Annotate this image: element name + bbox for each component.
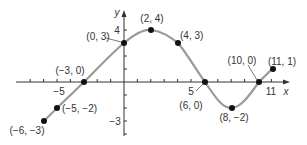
label-8-neg2: (8, −2): [219, 112, 248, 123]
point-neg5-neg2: [54, 105, 60, 111]
label-2-4: (2, 4): [140, 13, 163, 24]
x-tick-label-11: 11: [266, 86, 277, 97]
point-6-0: [202, 79, 208, 85]
point-10-0: [256, 79, 262, 85]
label-11-1: (11, 1): [268, 56, 296, 67]
y-tick-label-neg3: −3: [109, 116, 121, 127]
x-tick-label-5: 5: [188, 86, 194, 97]
label-4-3: (4, 3): [180, 30, 203, 41]
function-graph: −5 5 11 x y 4 −3 (−6, −3) (−5, −2) (−3, …: [0, 0, 307, 145]
x-axis-arrow-icon: [283, 80, 290, 85]
x-tick-label-neg5: −5: [53, 86, 65, 97]
label-10-0: (10, 0): [228, 55, 257, 66]
point-neg6-neg3: [41, 118, 47, 124]
point-2-4: [148, 27, 154, 33]
label-neg3-0: (−3, 0): [55, 65, 84, 76]
y-tick-label-4: 4: [114, 25, 120, 36]
y-axis-arrow-icon: [122, 10, 127, 17]
point-neg3-0: [81, 79, 87, 85]
point-0-3: [121, 40, 127, 46]
label-neg5-neg2: (−5, −2): [62, 103, 97, 114]
point-8-neg2: [229, 105, 235, 111]
label-6-0: (6, 0): [179, 100, 202, 111]
label-0-3: (0, 3): [86, 31, 109, 42]
x-axis-label: x: [283, 86, 290, 97]
y-axis-label: y: [114, 7, 121, 18]
label-neg6-neg3: (−6, −3): [9, 125, 44, 136]
